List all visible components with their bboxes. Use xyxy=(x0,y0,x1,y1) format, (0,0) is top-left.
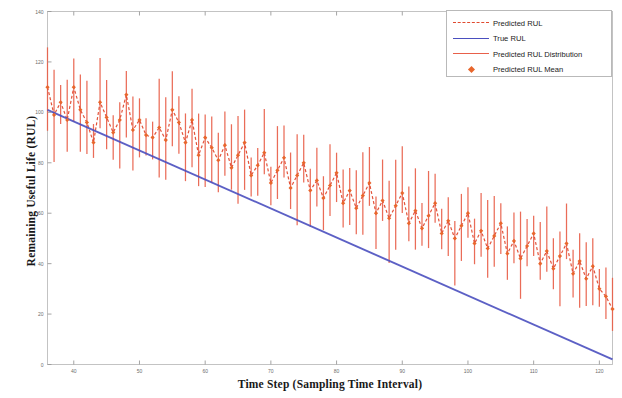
mean-marker xyxy=(499,221,503,225)
mean-marker xyxy=(308,188,312,192)
mean-marker xyxy=(262,151,266,155)
mean-marker xyxy=(374,211,378,215)
mean-marker xyxy=(288,186,292,190)
mean-marker xyxy=(479,229,483,233)
solid-line-icon xyxy=(453,53,489,54)
mean-marker xyxy=(275,168,279,172)
y-tick-label: 0 xyxy=(22,362,44,368)
legend-item[interactable]: Predicted RUL xyxy=(447,15,611,31)
mean-marker xyxy=(538,262,542,266)
mean-marker xyxy=(551,267,555,271)
x-axis-title: Time Step (Sampling Time Interval) xyxy=(47,378,613,390)
x-tick-label: 50 xyxy=(137,368,143,374)
mean-marker xyxy=(190,118,194,122)
mean-marker xyxy=(124,93,128,97)
y-axis-title: Remaining Useful Life (RUL) xyxy=(25,61,37,321)
mean-marker xyxy=(223,143,227,147)
mean-marker xyxy=(394,204,398,208)
mean-marker xyxy=(341,201,345,205)
mean-marker xyxy=(545,249,549,253)
mean-marker xyxy=(170,108,174,112)
mean-marker xyxy=(564,241,568,245)
x-tick-label: 40 xyxy=(71,368,77,374)
x-tick-label: 120 xyxy=(595,368,603,374)
mean-marker xyxy=(558,254,562,258)
mean-marker xyxy=(578,259,582,263)
mean-marker xyxy=(387,216,391,220)
mean-marker xyxy=(407,221,411,225)
mean-marker xyxy=(446,219,450,223)
mean-marker xyxy=(216,158,220,162)
mean-marker xyxy=(85,120,89,124)
mean-marker xyxy=(242,141,246,145)
mean-marker xyxy=(131,128,135,132)
solid-line-icon xyxy=(451,32,491,46)
legend-item-label: Predicted RUL xyxy=(493,19,542,28)
mean-marker xyxy=(91,141,95,145)
mean-marker xyxy=(472,241,476,245)
legend-item-label: Predicted RUL Distribution xyxy=(493,50,582,59)
mean-marker xyxy=(118,118,122,122)
legend-item[interactable]: True RUL xyxy=(447,31,611,47)
predicted-rul-distribution-layer xyxy=(48,47,613,331)
mean-marker xyxy=(78,108,82,112)
mean-marker xyxy=(269,181,273,185)
diamond-marker-icon xyxy=(451,63,491,77)
chart-legend: Predicted RULTrue RULPredicted RUL Distr… xyxy=(446,10,612,77)
x-tick-label: 60 xyxy=(202,368,208,374)
mean-marker xyxy=(302,161,306,165)
mean-marker xyxy=(334,171,338,175)
rul-prediction-chart: 405060708090100110120020406080100120140 … xyxy=(0,0,622,398)
mean-marker xyxy=(111,130,115,134)
mean-marker xyxy=(229,166,233,170)
mean-marker xyxy=(151,135,155,139)
mean-marker xyxy=(571,272,575,276)
mean-marker xyxy=(203,135,207,139)
mean-marker xyxy=(321,196,325,200)
x-tick-label: 100 xyxy=(464,368,472,374)
mean-marker xyxy=(144,133,148,137)
mean-marker xyxy=(164,138,168,142)
mean-marker xyxy=(72,85,76,89)
legend-item[interactable]: Predicted RUL Mean xyxy=(447,62,611,78)
mean-marker xyxy=(380,199,384,203)
mean-marker xyxy=(420,226,424,230)
x-tick-label: 90 xyxy=(399,368,405,374)
mean-marker xyxy=(400,191,404,195)
mean-marker xyxy=(486,246,490,250)
mean-marker xyxy=(453,236,457,240)
x-tick-label: 110 xyxy=(530,368,538,374)
mean-marker xyxy=(525,244,529,248)
mean-marker xyxy=(440,231,444,235)
mean-marker xyxy=(361,193,365,197)
mean-marker xyxy=(512,239,516,243)
mean-marker xyxy=(466,211,470,215)
mean-marker xyxy=(459,224,463,228)
mean-marker xyxy=(98,100,102,104)
mean-marker xyxy=(256,163,260,167)
mean-marker xyxy=(177,120,181,124)
mean-marker xyxy=(197,153,201,157)
dashed-line-icon xyxy=(451,16,491,30)
mean-marker xyxy=(518,257,522,261)
mean-marker xyxy=(354,206,358,210)
solid-line-icon xyxy=(453,38,489,39)
mean-marker xyxy=(348,188,352,192)
y-tick-label: 140 xyxy=(22,9,44,15)
mean-marker xyxy=(328,183,332,187)
legend-item[interactable]: Predicted RUL Distribution xyxy=(447,46,611,62)
mean-marker xyxy=(59,100,63,104)
mean-marker xyxy=(413,209,417,213)
mean-marker xyxy=(367,181,371,185)
x-tick-label: 70 xyxy=(268,368,274,374)
x-tick-label: 80 xyxy=(334,368,340,374)
mean-marker xyxy=(492,234,496,238)
mean-marker xyxy=(45,85,49,89)
mean-marker xyxy=(426,214,430,218)
mean-marker xyxy=(591,264,595,268)
solid-line-icon xyxy=(451,47,491,61)
dashed-line-icon xyxy=(453,22,489,23)
legend-item-label: Predicted RUL Mean xyxy=(493,65,563,74)
diamond-marker-icon xyxy=(468,65,475,72)
legend-item-label: True RUL xyxy=(493,34,526,43)
